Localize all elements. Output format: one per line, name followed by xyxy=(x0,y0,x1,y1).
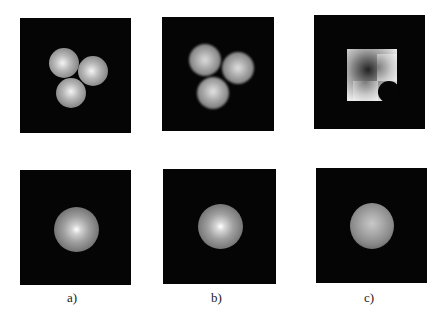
sphere xyxy=(49,48,79,78)
bottom-panel-a xyxy=(20,170,131,285)
sphere xyxy=(189,44,221,76)
radial-glow xyxy=(350,203,394,249)
top-panel-c xyxy=(314,15,425,129)
label-c: c) xyxy=(364,290,374,306)
sphere xyxy=(222,52,254,84)
radial-glow xyxy=(54,207,99,252)
cross-pattern-right xyxy=(377,54,397,81)
label-b: b) xyxy=(211,290,222,306)
dark-cutout xyxy=(378,81,400,103)
bottom-panel-b xyxy=(163,169,276,284)
bottom-panel-c xyxy=(316,168,427,283)
cross-pattern-bottom xyxy=(353,81,378,101)
top-panel-b xyxy=(162,17,274,131)
label-a: a) xyxy=(67,290,77,306)
sphere xyxy=(78,56,108,86)
radial-glow xyxy=(198,204,243,249)
top-panel-a xyxy=(20,18,131,133)
sphere xyxy=(197,77,229,109)
sphere xyxy=(56,78,86,108)
